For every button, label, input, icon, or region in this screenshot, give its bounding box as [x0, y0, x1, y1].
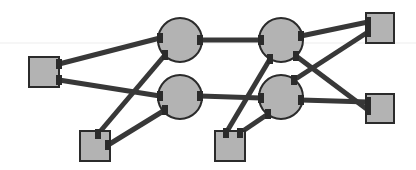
edge-port-mark: [162, 50, 168, 60]
diagram-svg: [0, 0, 416, 170]
edge-port-mark: [237, 128, 243, 138]
edge-port-mark: [293, 51, 299, 61]
edge-port-mark: [157, 91, 163, 101]
edge-port-mark: [291, 75, 297, 85]
edge-circ-top-2-to-sq-top-right: [301, 22, 368, 36]
network-diagram: [0, 0, 416, 170]
edge-port-mark: [197, 35, 203, 45]
edge-port-mark: [95, 129, 101, 139]
edge-port-mark: [365, 17, 371, 27]
edge-port-mark: [105, 140, 111, 150]
edge-port-mark: [223, 128, 229, 138]
edge-port-mark: [298, 31, 304, 41]
edge-circ-bottom-2-to-sq-top-right: [294, 32, 368, 80]
edge-port-mark: [298, 95, 304, 105]
edge-port-mark: [258, 93, 264, 103]
edge-circ-bottom-2-to-sq-bottom-right: [301, 100, 368, 102]
edges-layer: [59, 22, 368, 145]
edge-port-mark: [157, 33, 163, 43]
edge-sq-left-to-circ-top-1: [59, 38, 160, 64]
edge-port-mark: [365, 27, 371, 37]
edge-port-mark: [56, 75, 62, 85]
edge-port-mark: [197, 91, 203, 101]
edge-port-mark: [265, 109, 271, 119]
edge-port-mark: [258, 35, 264, 45]
edge-port-mark: [365, 97, 371, 107]
edge-circ-bottom-1-to-circ-bottom-2: [200, 96, 261, 98]
edge-port-mark: [162, 105, 168, 115]
edge-port-mark: [267, 54, 273, 64]
edge-port-mark: [56, 59, 62, 69]
node-sq-left: [29, 57, 59, 87]
